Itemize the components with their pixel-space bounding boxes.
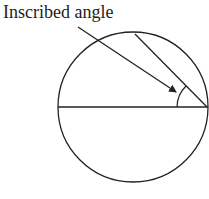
angle-arc <box>177 86 186 107</box>
circle-diagram <box>0 0 209 199</box>
chord-line <box>135 34 207 107</box>
pointer-arrow <box>78 27 176 92</box>
